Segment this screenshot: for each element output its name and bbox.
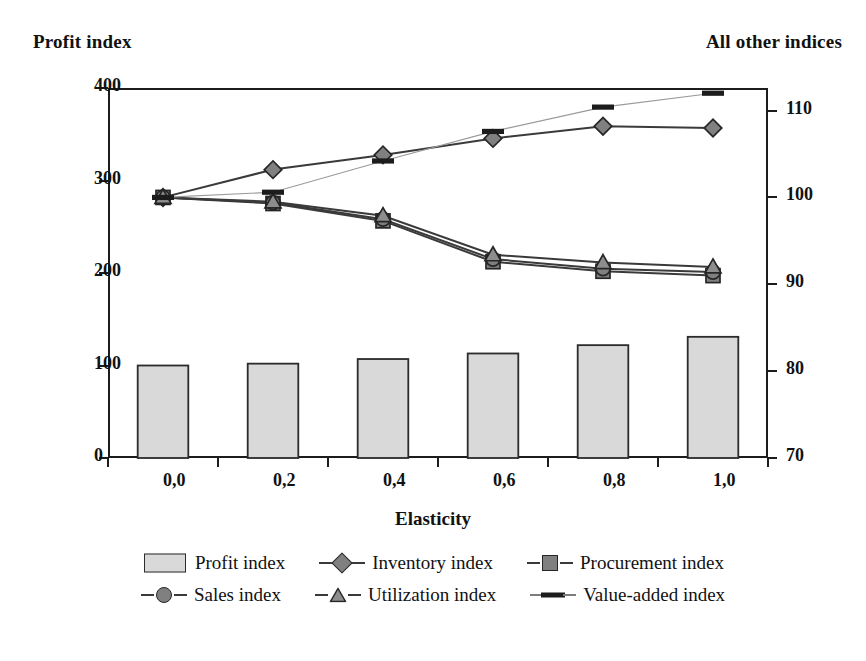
legend-label: Procurement index (580, 552, 724, 574)
legend-item-procurement-index[interactable]: Procurement index (527, 552, 724, 574)
y-axis-tick-label: 300 (94, 168, 121, 189)
y-axis-tick-label: 400 (94, 75, 121, 96)
legend-label: Value-added index (583, 584, 725, 606)
x-axis-tick (107, 458, 109, 467)
bar-profit-index (138, 366, 189, 459)
y2-axis-tick (768, 196, 777, 198)
marker-value-added-index (482, 129, 504, 134)
legend-row-2: Sales index Utilization index (141, 584, 725, 606)
marker-inventory-index (594, 117, 612, 135)
y-axis-tick-label: 200 (94, 260, 121, 281)
y2-axis-tick-label: 100 (786, 184, 813, 205)
x-axis-tick-label: 0,8 (603, 470, 626, 491)
dash-marker-icon (530, 584, 576, 606)
x-axis-tick-label: 0,4 (383, 470, 406, 491)
bar-profit-index (248, 364, 299, 458)
marker-value-added-index (592, 105, 614, 110)
y2-axis-tick-label: 110 (786, 98, 812, 119)
legend-label: Sales index (194, 584, 281, 606)
marker-value-added-index (152, 195, 174, 200)
x-axis-tick (437, 458, 439, 467)
legend-label: Profit index (195, 552, 285, 574)
x-axis-tick (327, 458, 329, 467)
y2-axis-tick (768, 370, 777, 372)
square-marker-icon (527, 552, 573, 574)
y-axis-tick-label: 0 (94, 445, 103, 466)
marker-inventory-index (264, 161, 282, 179)
legend-row-1: Profit index Inventory index Procurement… (142, 552, 724, 574)
legend-label: Inventory index (372, 552, 493, 574)
x-axis-tick-label: 0,2 (273, 470, 296, 491)
x-axis-tick-label: 0,0 (163, 470, 186, 491)
legend-label: Utilization index (368, 584, 496, 606)
y2-axis-tick (768, 283, 777, 285)
y-axis-tick-label: 100 (94, 353, 121, 374)
legend-item-inventory-index[interactable]: Inventory index (319, 552, 493, 574)
bar-swatch-icon (142, 552, 188, 574)
marker-inventory-index (704, 119, 722, 137)
legend-item-utilization-index[interactable]: Utilization index (315, 584, 496, 606)
marker-value-added-index (702, 91, 724, 96)
line-inventory-index (163, 126, 713, 197)
x-axis-tick (547, 458, 549, 467)
marker-value-added-index (372, 158, 394, 163)
y2-axis-tick-label: 70 (786, 445, 804, 466)
bar-profit-index (688, 337, 739, 458)
line-utilization-index (163, 197, 713, 267)
x-axis-tick-label: 1,0 (713, 470, 736, 491)
y2-axis-tick (768, 457, 777, 459)
line-value-added-index (163, 93, 713, 197)
legend-item-profit-index[interactable]: Profit index (142, 552, 285, 574)
marker-value-added-index (262, 190, 284, 195)
y2-axis-tick (768, 110, 777, 112)
triangle-marker-icon (315, 584, 361, 606)
diamond-marker-icon (319, 552, 365, 574)
chart-figure: Profit index All other indices 010020030… (0, 0, 866, 661)
bar-profit-index (358, 359, 409, 458)
bar-profit-index (468, 353, 519, 458)
x-axis-title: Elasticity (0, 508, 866, 530)
x-axis-tick (767, 458, 769, 467)
circle-marker-icon (141, 584, 187, 606)
x-axis-tick (217, 458, 219, 467)
x-axis-tick-label: 0,6 (493, 470, 516, 491)
chart-legend: Profit index Inventory index Procurement… (0, 552, 866, 606)
bar-profit-index (578, 345, 629, 458)
legend-item-value-added-index[interactable]: Value-added index (530, 584, 725, 606)
x-axis-tick (657, 458, 659, 467)
y2-axis-tick-label: 80 (786, 358, 804, 379)
legend-item-sales-index[interactable]: Sales index (141, 584, 281, 606)
y2-axis-tick-label: 90 (786, 271, 804, 292)
